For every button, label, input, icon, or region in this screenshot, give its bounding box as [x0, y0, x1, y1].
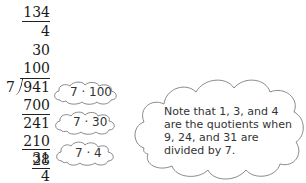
remainder-241: 241 [23, 116, 50, 130]
note-line-3: 9, 24, and 31 are [164, 131, 292, 144]
partial-quotient-30: 30 [32, 43, 50, 57]
subtract-700: 700 [23, 98, 50, 112]
dividend: 941 [23, 80, 50, 94]
annotation-7x4: 7 · 4 [75, 146, 102, 160]
remainder-4: 4 [41, 169, 50, 183]
division-bracket [12, 79, 23, 95]
note-text: Note that 1, 3, and 4 are the quotients … [164, 105, 292, 157]
note-line-1: Note that 1, 3, and 4 [164, 105, 292, 118]
subtract-210: 210 [23, 134, 50, 148]
note-line-4: divided by 7. [164, 144, 292, 157]
note-line-2: are the quotients when [164, 118, 292, 131]
quotient-total: 134 [23, 5, 50, 19]
partial-quotient-4: 4 [41, 24, 50, 38]
annotation-7x30: 7 · 30 [73, 115, 107, 129]
partial-quotient-100: 100 [23, 61, 50, 75]
quotient-sum-rule [22, 21, 50, 22]
subtract-28-final: 28 [32, 153, 50, 167]
annotation-7x100: 7 · 100 [70, 85, 112, 99]
